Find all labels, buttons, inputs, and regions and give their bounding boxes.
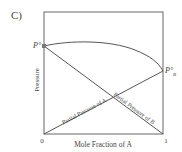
x-tick-1: 1 xyxy=(164,137,168,145)
y-axis-label: Pressure xyxy=(33,68,41,92)
left-intercept-marker xyxy=(42,44,46,48)
total-pressure-curve xyxy=(44,42,163,71)
left-intercept-label: P° xyxy=(32,41,42,50)
pressure-composition-chart: P° P°B Partial Pressure of A Partial Pre… xyxy=(0,0,182,152)
x-tick-0: 0 xyxy=(40,137,44,145)
line-a-label: Partial Pressure of A xyxy=(61,97,108,126)
right-intercept-label: P°B xyxy=(164,66,176,77)
line-b-label: Partial Pressure of B xyxy=(113,91,156,125)
x-axis-label: Mole Fraction of A xyxy=(74,140,132,149)
